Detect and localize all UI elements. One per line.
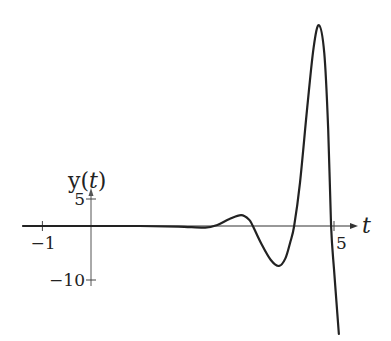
- y-tick-label: −10: [49, 270, 85, 290]
- x-tick-label: −1: [30, 233, 55, 253]
- x-tick-label: 5: [336, 233, 347, 253]
- x-axis-label: t: [362, 213, 371, 238]
- chart: −155−10 t y(t): [0, 0, 391, 341]
- x-axis-arrow-icon: [350, 223, 358, 229]
- y-axis-label: y(t): [67, 168, 106, 193]
